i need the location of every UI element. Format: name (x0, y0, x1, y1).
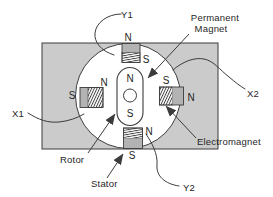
electromagnet-bottom-core (124, 139, 143, 149)
label-permanent-magnet-line1: Permanent (191, 12, 239, 23)
arrow-stator (107, 154, 123, 178)
electromagnet-top-coil (122, 53, 140, 63)
pole-left-inner: N (100, 77, 107, 88)
diagram-canvas: N S N S S N N S N S Y1 X1 X2 Y2 Permanen… (0, 0, 273, 197)
pole-rotor-bottom: S (127, 108, 134, 119)
pole-bottom-inner: N (145, 126, 152, 137)
pole-right-inner: S (163, 75, 170, 86)
label-x1: X1 (12, 108, 24, 119)
pole-right-outer: N (187, 92, 194, 103)
stepper-motor-diagram: N S N S S N N S N S Y1 X1 X2 Y2 Permanen… (0, 0, 273, 197)
label-y1: Y1 (121, 9, 133, 20)
pole-top-inner: S (143, 54, 150, 65)
electromagnet-bottom-coil (124, 128, 143, 139)
electromagnet-top (122, 44, 140, 63)
pole-bottom-outer: S (129, 150, 136, 161)
label-stator: Stator (91, 178, 118, 189)
electromagnet-top-core (122, 44, 140, 53)
pole-rotor-top: N (126, 73, 133, 84)
electromagnet-right (160, 87, 184, 105)
rotor-shaft (124, 89, 137, 102)
label-electromagnet: Electromagnet (197, 136, 261, 147)
electromagnet-left (80, 88, 103, 108)
label-rotor: Rotor (60, 154, 84, 165)
label-permanent-magnet-line2: Magnet (195, 23, 228, 34)
pole-top-outer: N (124, 32, 131, 43)
electromagnet-right-coil (160, 87, 173, 105)
label-x2: X2 (247, 88, 259, 99)
electromagnet-right-core (173, 87, 184, 105)
electromagnet-left-core (80, 88, 88, 108)
electromagnet-left-coil (88, 88, 103, 108)
pole-left-outer: S (69, 90, 76, 101)
label-y2: Y2 (183, 182, 195, 193)
electromagnet-bottom (124, 128, 143, 149)
